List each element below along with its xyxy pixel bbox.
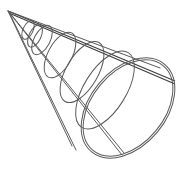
ring-3	[51, 35, 113, 110]
ring-4	[64, 42, 146, 139]
wireframe-cone-figure: Wireframe cone	[0, 0, 183, 176]
ring-5-outer	[62, 40, 183, 176]
